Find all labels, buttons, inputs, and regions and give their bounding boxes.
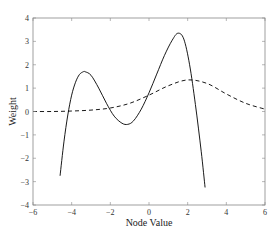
x-tick-label: −6 bbox=[29, 208, 38, 217]
x-tick-label: 6 bbox=[263, 208, 267, 217]
solid-series-line bbox=[60, 33, 205, 187]
y-tick-label: 0 bbox=[25, 108, 29, 117]
dashed-series-line bbox=[33, 80, 265, 112]
x-tick-label: 2 bbox=[186, 208, 190, 217]
plot-frame bbox=[33, 18, 265, 205]
y-tick-label: 4 bbox=[25, 14, 29, 23]
x-tick-label: 0 bbox=[147, 208, 151, 217]
axis-ticks: −6−4−20246−4−3−2−101234 bbox=[20, 14, 267, 217]
x-tick-label: −4 bbox=[67, 208, 76, 217]
x-tick-label: −2 bbox=[106, 208, 115, 217]
line-chart: −6−4−20246−4−3−2−101234 Node Value Weigh… bbox=[0, 0, 278, 234]
y-tick-label: 2 bbox=[25, 61, 29, 70]
y-axis-label: Weight bbox=[7, 97, 18, 126]
y-tick-label: 3 bbox=[25, 37, 29, 46]
y-tick-label: −1 bbox=[20, 131, 29, 140]
x-axis-label: Node Value bbox=[126, 217, 173, 228]
y-tick-label: −4 bbox=[20, 201, 29, 210]
y-tick-label: 1 bbox=[25, 84, 29, 93]
x-tick-label: 4 bbox=[224, 208, 228, 217]
plot-area bbox=[33, 33, 265, 187]
y-tick-label: −2 bbox=[20, 154, 29, 163]
y-tick-label: −3 bbox=[20, 178, 29, 187]
